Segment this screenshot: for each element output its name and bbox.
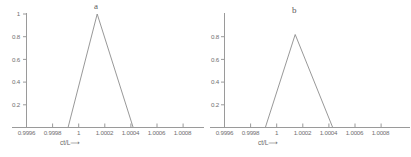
x-ticks-b [225, 124, 382, 128]
x-axis-arrow-icon-b: ⟶ [268, 139, 276, 146]
y-ticks-b [221, 37, 225, 105]
distribution-curve-b [266, 35, 333, 128]
x-axis-title-b: ct/L⟶ [258, 139, 277, 147]
y-ticks-a [23, 14, 27, 105]
y-tick-label-b-2: 0.4 [201, 78, 219, 85]
panel-letter-a: a [94, 1, 98, 11]
y-tick-label-a-3: 0.4 [2, 78, 20, 85]
x-axis-title-a: ct/L⟶ [60, 139, 79, 147]
panel-letter-b: b [292, 5, 297, 15]
x-axis-arrow-icon-a: ⟶ [70, 139, 78, 146]
y-tick-label-b-3: 0.2 [201, 101, 219, 108]
x-tick-label-b-6: 1.0008 [364, 129, 397, 136]
y-tick-label-b-0: 0.8 [201, 33, 219, 40]
x-axis-title-text-b: ct/L [258, 139, 268, 146]
y-tick-label-a-0: 1 [6, 10, 20, 17]
x-tick-label-a-6: 1.0008 [166, 129, 199, 136]
figure-container: 1 0.8 0.6 0.4 0.2 0.9996 0.9998 1 1.0002… [0, 0, 411, 157]
y-tick-label-a-1: 0.8 [2, 33, 20, 40]
y-tick-label-a-2: 0.6 [2, 56, 20, 63]
x-axis-title-text-a: ct/L [60, 139, 70, 146]
x-ticks-a [27, 124, 184, 128]
distribution-curve-a [68, 14, 133, 127]
chart-panel-b: 0.8 0.6 0.4 0.2 0.9996 0.9998 1 1.0002 1… [206, 0, 411, 157]
y-tick-label-b-1: 0.6 [201, 56, 219, 63]
chart-panel-a: 1 0.8 0.6 0.4 0.2 0.9996 0.9998 1 1.0002… [0, 0, 205, 157]
y-tick-label-a-4: 0.2 [2, 101, 20, 108]
